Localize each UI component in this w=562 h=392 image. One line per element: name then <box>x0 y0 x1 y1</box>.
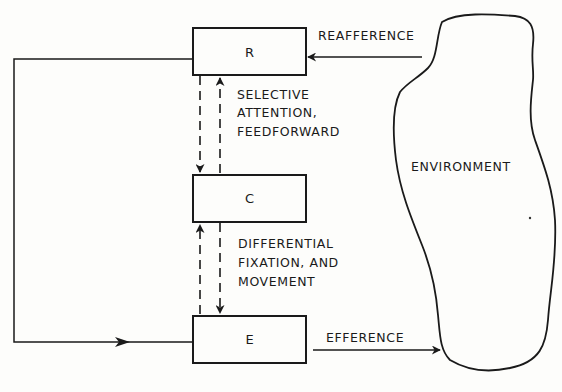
node-c-label: C <box>245 191 254 206</box>
svg-text:DIFFERENTIAL: DIFFERENTIAL <box>238 236 334 251</box>
edge-c-e-dashed <box>200 223 220 314</box>
svg-text:FIXATION, AND: FIXATION, AND <box>238 255 339 270</box>
efference-label: EFFERENCE <box>326 330 404 345</box>
node-r-label: R <box>245 45 254 60</box>
speck-mark <box>529 217 531 219</box>
label-selective-attention: SELECTIVE ATTENTION, FEEDFORWARD <box>237 87 340 139</box>
node-c: C <box>193 175 306 222</box>
label-differential-fixation: DIFFERENTIAL FIXATION, AND MOVEMENT <box>238 236 339 289</box>
reafference-label: REAFFERENCE <box>318 28 415 43</box>
edge-r-to-e-loop <box>14 59 193 347</box>
edge-r-c-dashed <box>200 76 220 173</box>
node-e: E <box>193 316 306 363</box>
node-r: R <box>193 28 306 75</box>
svg-text:FEEDFORWARD: FEEDFORWARD <box>237 124 340 139</box>
diagram-canvas: R C E SELECTIVE ATTENTION, FEEDFORWARD D… <box>0 0 562 392</box>
edge-reafference: REAFFERENCE <box>308 28 422 57</box>
svg-text:MOVEMENT: MOVEMENT <box>238 274 315 289</box>
environment-label: ENVIRONMENT <box>411 159 511 174</box>
edge-efference: EFFERENCE <box>313 330 440 350</box>
svg-text:SELECTIVE: SELECTIVE <box>237 87 310 102</box>
svg-text:ATTENTION,: ATTENTION, <box>237 105 317 120</box>
node-e-label: E <box>245 332 253 347</box>
node-environment: ENVIRONMENT <box>394 14 555 370</box>
